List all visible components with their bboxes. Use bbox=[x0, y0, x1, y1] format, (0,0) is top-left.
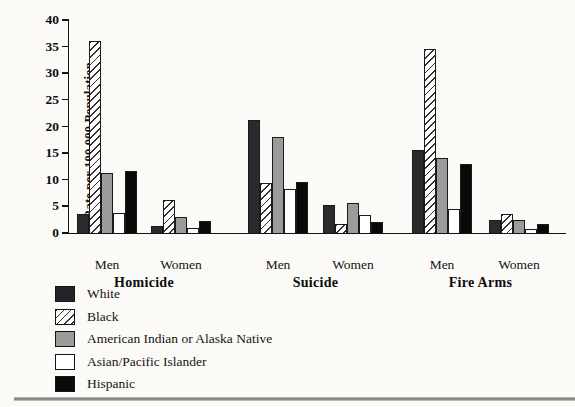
cluster-label-women: Women bbox=[146, 257, 216, 273]
legend-swatch-icon bbox=[55, 376, 75, 392]
y-tick-0 bbox=[62, 232, 69, 234]
y-tick-35 bbox=[62, 46, 69, 48]
y-tick-20 bbox=[62, 126, 69, 128]
legend-label: Hispanic bbox=[87, 376, 135, 392]
bar-homicide-women-2 bbox=[175, 217, 187, 233]
cluster-fire-arms-women bbox=[489, 20, 549, 233]
y-tick-label-25: 25 bbox=[27, 92, 59, 108]
bar-suicide-women-3 bbox=[359, 215, 371, 233]
cluster-suicide-women bbox=[323, 20, 383, 233]
group-label-suicide: Suicide bbox=[256, 275, 376, 291]
legend-swatch-icon bbox=[55, 331, 75, 347]
y-tick-10 bbox=[62, 179, 69, 181]
y-tick-label-35: 35 bbox=[27, 39, 59, 55]
bar-suicide-women-1 bbox=[335, 224, 347, 233]
figure-canvas: Rate per 100,000 Population 051015202530… bbox=[0, 0, 575, 407]
legend-label: Black bbox=[87, 309, 119, 325]
cluster-suicide-men bbox=[248, 20, 308, 233]
legend-item: American Indian or Alaska Native bbox=[55, 328, 272, 351]
cluster-label-women: Women bbox=[484, 257, 554, 273]
y-tick-40 bbox=[62, 19, 69, 21]
bar-homicide-men-1 bbox=[89, 41, 101, 233]
legend-item: Asian/Pacific Islander bbox=[55, 351, 272, 374]
bar-fire-arms-women-1 bbox=[501, 214, 513, 233]
group-label-fire-arms: Fire Arms bbox=[421, 275, 541, 291]
legend-swatch-icon bbox=[55, 286, 75, 302]
bar-suicide-men-2 bbox=[272, 137, 284, 233]
y-tick-5 bbox=[62, 205, 69, 207]
y-tick-label-40: 40 bbox=[27, 12, 59, 28]
legend-swatch-icon bbox=[55, 309, 75, 325]
cluster-homicide-women bbox=[151, 20, 211, 233]
cluster-label-men: Men bbox=[72, 257, 142, 273]
legend-label: White bbox=[87, 286, 120, 302]
plot-area: Rate per 100,000 Population 051015202530… bbox=[68, 20, 566, 234]
bar-homicide-women-0 bbox=[151, 226, 163, 233]
cluster-label-women: Women bbox=[318, 257, 388, 273]
legend-label: Asian/Pacific Islander bbox=[87, 354, 207, 370]
bar-fire-arms-men-3 bbox=[448, 209, 460, 233]
bottom-rule bbox=[14, 397, 575, 401]
bar-suicide-women-2 bbox=[347, 203, 359, 233]
y-tick-15 bbox=[62, 152, 69, 154]
bar-fire-arms-women-3 bbox=[525, 229, 537, 233]
bar-suicide-women-0 bbox=[323, 205, 335, 233]
bar-fire-arms-women-2 bbox=[513, 220, 525, 233]
bar-suicide-men-3 bbox=[284, 189, 296, 233]
legend-item: Black bbox=[55, 306, 272, 329]
bar-homicide-men-3 bbox=[113, 213, 125, 233]
y-tick-label-20: 20 bbox=[27, 119, 59, 135]
bar-homicide-men-2 bbox=[101, 173, 113, 233]
bar-fire-arms-women-0 bbox=[489, 220, 501, 233]
cluster-label-men: Men bbox=[243, 257, 313, 273]
y-tick-label-0: 0 bbox=[27, 225, 59, 241]
y-tick-30 bbox=[62, 72, 69, 74]
cluster-label-men: Men bbox=[407, 257, 477, 273]
bar-suicide-men-4 bbox=[296, 182, 308, 233]
legend-swatch-icon bbox=[55, 354, 75, 370]
legend-label: American Indian or Alaska Native bbox=[87, 331, 272, 347]
bar-fire-arms-men-4 bbox=[460, 164, 472, 233]
bar-fire-arms-women-4 bbox=[537, 224, 549, 233]
y-tick-label-10: 10 bbox=[27, 172, 59, 188]
bar-suicide-men-0 bbox=[248, 120, 260, 233]
bar-fire-arms-men-1 bbox=[424, 49, 436, 233]
cluster-homicide-men bbox=[77, 20, 137, 233]
bar-fire-arms-men-0 bbox=[412, 150, 424, 233]
cluster-fire-arms-men bbox=[412, 20, 472, 233]
legend: WhiteBlackAmerican Indian or Alaska Nati… bbox=[55, 283, 272, 396]
y-tick-25 bbox=[62, 99, 69, 101]
bar-suicide-women-4 bbox=[371, 222, 383, 233]
y-tick-label-15: 15 bbox=[27, 145, 59, 161]
bar-fire-arms-men-2 bbox=[436, 158, 448, 233]
bar-homicide-men-4 bbox=[125, 171, 137, 233]
legend-item: White bbox=[55, 283, 272, 306]
bar-homicide-women-1 bbox=[163, 200, 175, 233]
y-tick-label-5: 5 bbox=[27, 198, 59, 214]
bar-suicide-men-1 bbox=[260, 183, 272, 233]
bar-homicide-men-0 bbox=[77, 214, 89, 233]
legend-item: Hispanic bbox=[55, 373, 272, 396]
bar-homicide-women-3 bbox=[187, 228, 199, 233]
y-tick-label-30: 30 bbox=[27, 65, 59, 81]
bar-homicide-women-4 bbox=[199, 221, 211, 233]
